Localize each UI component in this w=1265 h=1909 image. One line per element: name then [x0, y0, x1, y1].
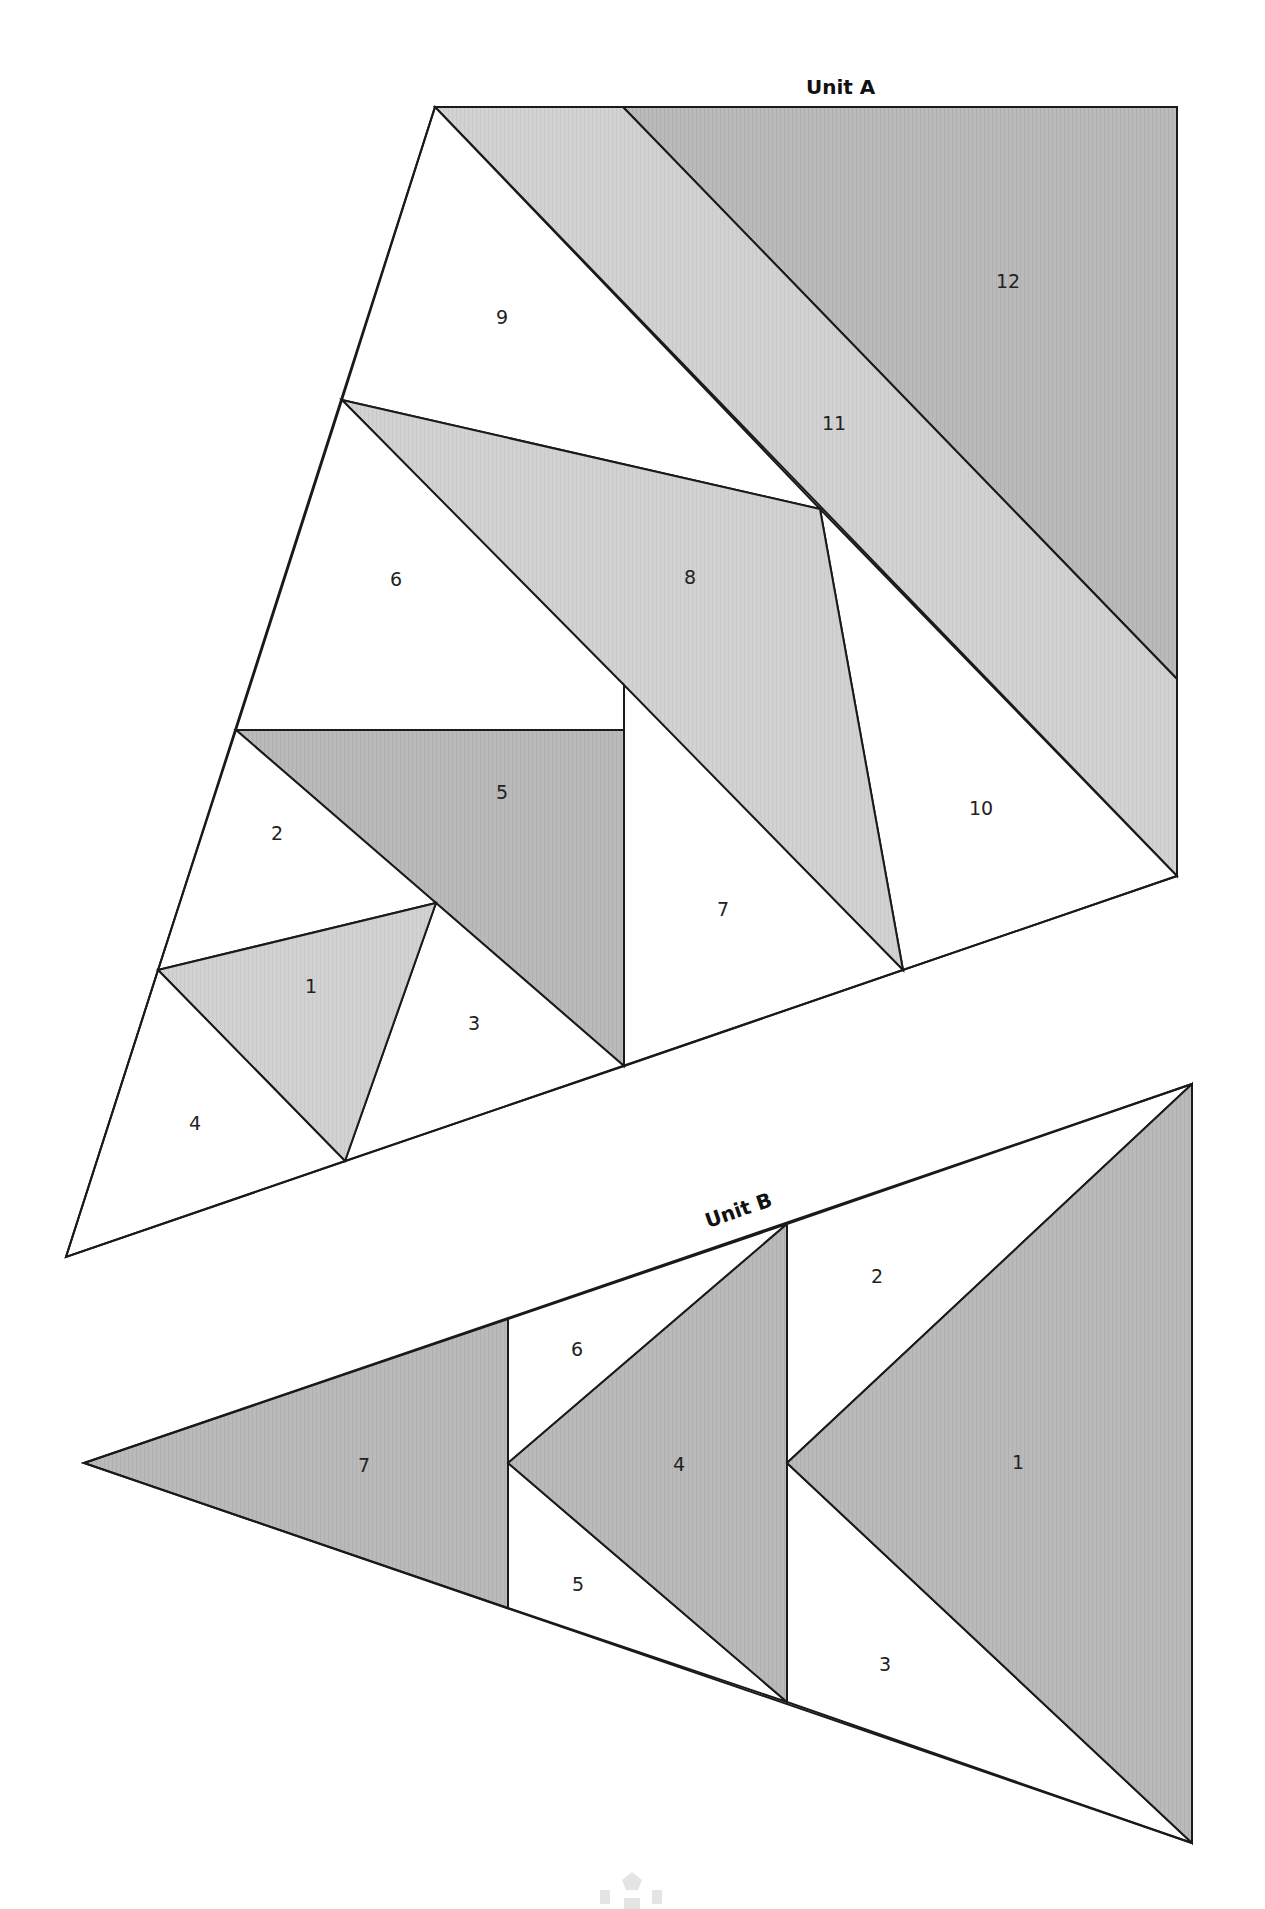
unit-b-label-4: 4 [673, 1453, 685, 1475]
unit-a-label-1: 1 [305, 975, 317, 997]
unit-a-label-7: 7 [717, 898, 729, 920]
unit-a-label-5: 5 [496, 781, 508, 803]
unit-b-label-3: 3 [879, 1653, 891, 1675]
unit-a-label-11: 11 [822, 412, 846, 434]
unit-a-label-12: 12 [996, 270, 1020, 292]
watermark-icon [600, 1872, 662, 1909]
unit-b-label-5: 5 [572, 1573, 584, 1595]
unit-b-label-6: 6 [571, 1338, 583, 1360]
unit-a-label-6: 6 [390, 568, 402, 590]
unit-b: Unit B 1 2 3 4 5 6 7 [84, 1084, 1192, 1843]
foundation-pattern-diagram: Unit A 1 2 3 4 5 6 7 8 9 10 11 12 Unit B… [0, 0, 1265, 1909]
unit-a-title: Unit A [806, 75, 876, 99]
unit-b-title: Unit B [702, 1188, 775, 1233]
unit-a-label-8: 8 [684, 566, 696, 588]
unit-a: Unit A 1 2 3 4 5 6 7 8 9 10 11 12 [66, 75, 1177, 1257]
unit-b-label-1: 1 [1012, 1451, 1024, 1473]
unit-b-piece-7 [84, 1319, 508, 1608]
unit-a-label-9: 9 [496, 306, 508, 328]
unit-b-label-7: 7 [358, 1454, 370, 1476]
unit-b-label-2: 2 [871, 1265, 883, 1287]
unit-a-label-4: 4 [189, 1112, 201, 1134]
unit-a-label-3: 3 [468, 1012, 480, 1034]
unit-a-label-10: 10 [969, 797, 993, 819]
unit-a-label-2: 2 [271, 822, 283, 844]
